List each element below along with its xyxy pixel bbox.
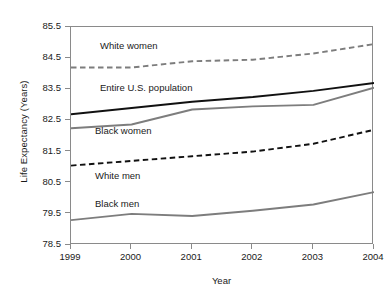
y-tick-label: 83.5 bbox=[15, 82, 61, 93]
plot-lines bbox=[71, 27, 374, 245]
y-tick-mark bbox=[65, 119, 70, 120]
x-tick-mark bbox=[70, 244, 71, 249]
y-axis-title: Life Expectancy (Years) bbox=[18, 47, 29, 217]
x-tick-label: 2002 bbox=[229, 251, 275, 262]
y-tick-label: 85.5 bbox=[15, 20, 61, 31]
y-tick-mark bbox=[65, 212, 70, 213]
x-tick-label: 1999 bbox=[47, 251, 93, 262]
x-axis-title: Year bbox=[70, 275, 373, 286]
x-tick-mark bbox=[312, 244, 313, 249]
series-line bbox=[71, 88, 374, 128]
y-tick-mark bbox=[65, 181, 70, 182]
series-label: White women bbox=[100, 40, 158, 51]
y-tick-mark bbox=[65, 57, 70, 58]
series-label: White men bbox=[95, 170, 140, 181]
series-label: Black women bbox=[95, 125, 152, 136]
y-tick-mark bbox=[65, 88, 70, 89]
y-tick-label: 80.5 bbox=[15, 176, 61, 187]
x-tick-mark bbox=[373, 244, 374, 249]
y-tick-mark bbox=[65, 26, 70, 27]
series-label: Black men bbox=[95, 198, 139, 209]
series-label: Entire U.S. population bbox=[100, 82, 192, 93]
x-tick-label: 2003 bbox=[289, 251, 335, 262]
x-tick-label: 2000 bbox=[108, 251, 154, 262]
x-tick-mark bbox=[191, 244, 192, 249]
y-tick-mark bbox=[65, 150, 70, 151]
x-tick-label: 2004 bbox=[350, 251, 388, 262]
y-tick-label: 79.5 bbox=[15, 207, 61, 218]
x-tick-label: 2001 bbox=[168, 251, 214, 262]
x-tick-mark bbox=[251, 244, 252, 249]
y-tick-label: 84.5 bbox=[15, 51, 61, 62]
y-tick-label: 78.5 bbox=[15, 238, 61, 249]
y-tick-label: 82.5 bbox=[15, 113, 61, 124]
x-tick-mark bbox=[130, 244, 131, 249]
y-tick-label: 81.5 bbox=[15, 145, 61, 156]
